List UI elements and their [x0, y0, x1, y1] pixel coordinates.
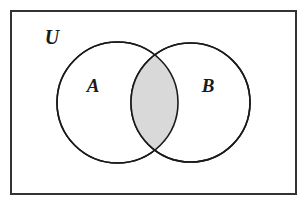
set-b-label: B: [201, 75, 215, 96]
venn-diagram-canvas: U A B: [0, 0, 308, 207]
universal-set-label: U: [45, 26, 61, 48]
set-a-label: A: [86, 75, 100, 96]
venn-diagram-figure: U A B: [0, 0, 308, 207]
